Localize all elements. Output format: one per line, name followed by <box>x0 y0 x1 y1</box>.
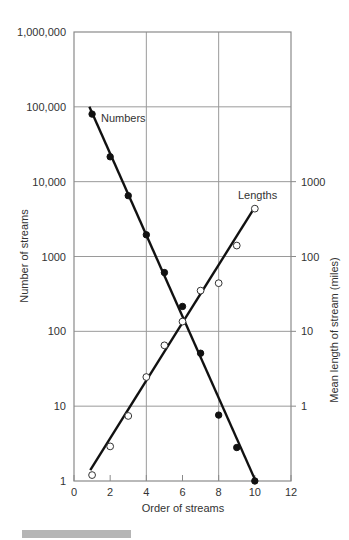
lengths-fit-line <box>90 207 255 470</box>
lengths-data-point <box>143 374 150 381</box>
y-right-tick-label: 1000 <box>301 176 325 188</box>
numbers-data-point <box>125 192 131 198</box>
lengths-data-point <box>107 443 114 450</box>
numbers-data-point <box>143 232 149 238</box>
y-left-tick-label: 1000 <box>42 251 66 263</box>
x-tick-label: 0 <box>71 486 77 498</box>
lengths-series-label: Lengths <box>238 189 278 201</box>
x-tick-label: 12 <box>285 486 297 498</box>
y-right-tick-label: 100 <box>301 251 319 263</box>
y-left-tick-label: 10,000 <box>32 176 66 188</box>
lengths-data-point <box>251 205 258 212</box>
x-axis-title: Order of streams <box>142 502 225 514</box>
y-right-tick-label: 1 <box>301 400 307 412</box>
numbers-data-point <box>161 269 167 275</box>
numbers-data-point <box>179 303 185 309</box>
footer-bar <box>22 530 131 538</box>
gridlines <box>74 32 291 481</box>
numbers-data-point <box>215 412 221 418</box>
numbers-data-point <box>89 111 95 117</box>
lengths-data-point <box>215 280 222 287</box>
numbers-data-point <box>234 444 240 450</box>
x-tick-label: 2 <box>107 486 113 498</box>
lengths-data-point <box>125 413 132 420</box>
numbers-fit-line <box>89 107 256 484</box>
x-tick-label: 4 <box>143 486 149 498</box>
lengths-data-point <box>233 242 240 249</box>
lengths-data-point <box>161 342 168 349</box>
data-series: NumbersLengths <box>89 107 278 484</box>
y-left-tick-label: 100 <box>48 325 66 337</box>
lengths-data-point <box>89 472 96 479</box>
numbers-data-point <box>107 154 113 160</box>
y-left-tick-label: 1 <box>60 475 66 487</box>
lengths-data-point <box>197 287 204 294</box>
y-right-axis-title: Mean length of stream (miles) <box>328 257 340 403</box>
y-right-tick-label: 10 <box>301 325 313 337</box>
axis-ticks: 024681012110100100010,000100,0001,000,00… <box>17 26 325 498</box>
numbers-data-point <box>197 350 203 356</box>
y-left-tick-label: 1,000,000 <box>17 26 66 38</box>
x-tick-label: 10 <box>249 486 261 498</box>
numbers-series-label: Numbers <box>101 112 146 124</box>
y-left-tick-label: 100,000 <box>26 101 66 113</box>
x-tick-label: 8 <box>216 486 222 498</box>
x-tick-label: 6 <box>179 486 185 498</box>
y-left-tick-label: 10 <box>54 400 66 412</box>
lengths-data-point <box>179 318 186 325</box>
y-left-axis-title: Number of streams <box>18 209 30 303</box>
numbers-data-point <box>252 478 258 484</box>
stream-order-chart: 024681012110100100010,000100,0001,000,00… <box>0 0 349 540</box>
